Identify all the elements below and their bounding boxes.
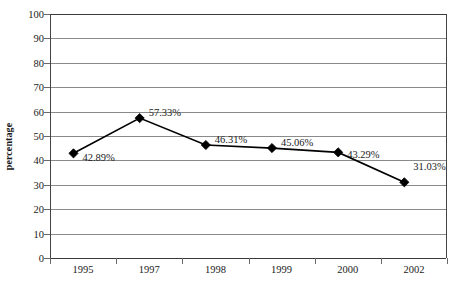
y-tick-label-90: 90 [4,33,44,44]
gridline-100 [51,14,446,15]
chart-screenshot: percentage 1009080706050403020100 199519… [0,0,460,292]
x-tick-label-2002: 2002 [384,264,444,275]
data-point-label-1999: 45.06% [281,137,313,148]
data-point-label-2000: 43.29% [347,149,379,160]
gridline-80 [51,63,446,64]
y-tick-label-80: 80 [4,57,44,68]
data-point-label-1997: 57.33% [149,107,181,118]
x-tick-mark-4 [315,258,316,264]
gridline-10 [51,234,446,235]
x-tick-label-1995: 1995 [53,264,113,275]
gridline-90 [51,38,446,39]
x-tick-label-2000: 2000 [318,264,378,275]
x-tick-label-1998: 1998 [185,264,245,275]
data-point-label-1995: 42.89% [82,152,114,163]
x-tick-mark-1 [116,258,117,264]
plot-area [50,14,447,258]
x-tick-mark-5 [381,258,382,264]
gridline-70 [51,87,446,88]
x-tick-mark-2 [182,258,183,264]
x-tick-mark-0 [50,258,51,264]
y-tick-label-30: 30 [4,179,44,190]
data-point-label-2002: 31.03% [413,161,445,172]
y-tick-label-100: 100 [4,9,44,20]
gridline-60 [51,112,446,113]
gridline-30 [51,185,446,186]
gridline-50 [51,136,446,137]
y-tick-label-20: 20 [4,204,44,215]
gridline-20 [51,209,446,210]
y-tick-label-10: 10 [4,228,44,239]
x-tick-label-1999: 1999 [252,264,312,275]
x-tick-label-1997: 1997 [119,264,179,275]
y-tick-label-60: 60 [4,106,44,117]
data-point-label-1998: 46.31% [215,134,247,145]
y-tick-label-70: 70 [4,82,44,93]
x-tick-mark-3 [249,258,250,264]
y-tick-label-50: 50 [4,131,44,142]
y-tick-label-0: 0 [4,253,44,264]
y-tick-label-40: 40 [4,155,44,166]
x-tick-mark-6 [447,258,448,264]
